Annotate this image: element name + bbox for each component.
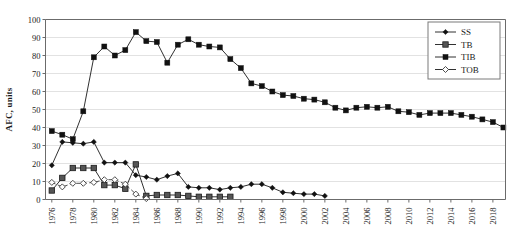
y-tick-label-30: 30 — [32, 141, 41, 151]
legend-label-TIB: TIB — [461, 52, 476, 62]
x-tick-label-2010: 2010 — [404, 208, 414, 225]
marker-TIB-2017 — [480, 117, 485, 122]
marker-TB-1976 — [49, 188, 54, 193]
x-tick-label-1992: 1992 — [215, 208, 225, 225]
marker-TIB-2011 — [417, 112, 422, 117]
y-axis-title: AFC, units — [4, 87, 14, 131]
marker-TIB-1980 — [91, 55, 96, 60]
marker-TIB-1997 — [270, 89, 275, 94]
marker-SS-1995 — [249, 182, 254, 187]
marker-SS-1987 — [165, 174, 170, 179]
marker-TIB-1977 — [60, 132, 65, 137]
marker-TIB-1996 — [259, 84, 264, 89]
x-tick-label-1984: 1984 — [131, 207, 141, 225]
marker-SS-1994 — [238, 184, 243, 189]
x-tick-label-1986: 1986 — [152, 208, 162, 225]
y-tick-label-90: 90 — [32, 33, 41, 43]
marker-TB-1988 — [175, 192, 180, 197]
x-axis-ticks: 1976197819801982198419861988199019921994… — [47, 200, 498, 225]
marker-TIB-1985 — [144, 39, 149, 44]
marker-SS-2002 — [322, 193, 327, 198]
marker-TIB-1986 — [154, 40, 159, 45]
legend-label-TOB: TOB — [461, 65, 479, 75]
marker-SS-1990 — [196, 185, 201, 190]
x-tick-label-2000: 2000 — [299, 208, 309, 225]
marker-TIB-1983 — [123, 48, 128, 53]
marker-SS-1992 — [217, 187, 222, 192]
x-tick-label-1976: 1976 — [47, 208, 57, 225]
x-tick-label-2008: 2008 — [383, 208, 393, 225]
y-tick-label-40: 40 — [32, 123, 41, 133]
marker-TIB-2003 — [333, 105, 338, 110]
y-tick-label-0: 0 — [36, 195, 40, 205]
marker-TIB-1993 — [228, 57, 233, 62]
x-tick-label-1988: 1988 — [173, 208, 183, 225]
x-tick-label-2012: 2012 — [425, 208, 435, 225]
marker-TB-1991 — [207, 194, 212, 199]
marker-TIB-1979 — [81, 109, 86, 114]
marker-TIB-1992 — [217, 45, 222, 50]
marker-TB-1979 — [81, 165, 86, 170]
x-tick-label-2006: 2006 — [362, 208, 372, 225]
x-tick-label-1982: 1982 — [110, 208, 120, 225]
marker-TIB-2013 — [438, 111, 443, 116]
chart-legend[interactable]: SSTBTIBTOB — [428, 22, 500, 79]
marker-TIB-2010 — [406, 110, 411, 115]
marker-TB-1986 — [154, 192, 159, 197]
marker-TIB-1984 — [133, 30, 138, 35]
marker-SS-1999 — [291, 191, 296, 196]
marker-TIB-1991 — [207, 44, 212, 49]
marker-TIB-1994 — [238, 66, 243, 71]
chart-page: 0102030405060708090100 19761978198019821… — [0, 0, 528, 243]
marker-TIB-1988 — [175, 42, 180, 47]
x-tick-label-2016: 2016 — [467, 208, 477, 225]
marker-TIB-1982 — [112, 53, 117, 58]
x-tick-label-1978: 1978 — [68, 208, 78, 225]
x-tick-label-2002: 2002 — [320, 208, 330, 225]
x-tick-label-2018: 2018 — [488, 208, 498, 225]
series-TB — [49, 162, 233, 200]
marker-TB-1989 — [186, 193, 191, 198]
legend-marker-TIB — [443, 55, 448, 60]
marker-SS-1997 — [270, 185, 275, 190]
afc-units-line-chart: 0102030405060708090100 19761978198019821… — [0, 0, 528, 243]
legend-label-SS: SS — [461, 27, 471, 37]
marker-TIB-2000 — [301, 96, 306, 101]
marker-SS-1993 — [228, 185, 233, 190]
marker-TIB-1995 — [249, 81, 254, 86]
marker-TB-1980 — [91, 165, 96, 170]
marker-TIB-1990 — [196, 42, 201, 47]
marker-TIB-2001 — [312, 97, 317, 102]
marker-TIB-2015 — [459, 112, 464, 117]
marker-TIB-2012 — [427, 111, 432, 116]
y-axis-label: AFC, units — [4, 87, 14, 131]
marker-SS-1996 — [259, 182, 264, 187]
marker-TIB-2007 — [375, 105, 380, 110]
x-tick-label-1990: 1990 — [194, 208, 204, 225]
series-line-TB — [52, 164, 231, 196]
marker-TIB-1998 — [280, 93, 285, 98]
y-tick-label-10: 10 — [32, 177, 41, 187]
marker-TIB-1989 — [186, 37, 191, 42]
marker-TIB-2006 — [364, 104, 369, 109]
marker-SS-1982 — [112, 160, 117, 165]
marker-TIB-2014 — [448, 111, 453, 116]
marker-TB-1977 — [60, 175, 65, 180]
marker-TIB-1976 — [49, 129, 54, 134]
marker-SS-1998 — [280, 190, 285, 195]
marker-TB-1978 — [70, 165, 75, 170]
marker-SS-2001 — [312, 192, 317, 197]
marker-SS-1977 — [60, 139, 65, 144]
marker-TOB-1980 — [91, 179, 97, 185]
marker-TB-1984 — [133, 162, 138, 167]
marker-SS-1981 — [102, 160, 107, 165]
marker-TIB-2002 — [322, 100, 327, 105]
marker-TIB-1987 — [165, 60, 170, 65]
marker-TIB-2016 — [469, 114, 474, 119]
marker-TB-1993 — [228, 194, 233, 199]
marker-TIB-1978 — [70, 137, 75, 142]
marker-TB-1990 — [196, 194, 201, 199]
marker-TIB-2004 — [343, 108, 348, 113]
y-tick-label-70: 70 — [32, 69, 41, 79]
marker-TIB-2009 — [396, 109, 401, 114]
